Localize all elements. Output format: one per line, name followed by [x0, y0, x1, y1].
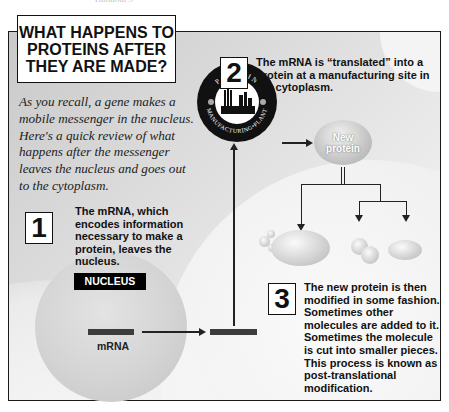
arrowhead-down-icon [355, 215, 363, 222]
arrowhead-right-icon [199, 328, 206, 336]
connector-right-drop [380, 184, 381, 201]
arrow-to-new-protein [282, 142, 307, 144]
cleaved-piece-2 [361, 246, 379, 264]
title-line-1: WHAT HAPPENS TO [19, 24, 174, 41]
connector-right-b [406, 201, 407, 215]
connector-right-horizontal [359, 201, 407, 202]
cleaved-piece-3 [388, 240, 422, 260]
connector-left-drop [301, 184, 302, 224]
step-3-number: 3 [268, 283, 296, 315]
arrowhead-down-icon [402, 215, 410, 222]
arrowhead-right-icon [306, 139, 313, 147]
step-2-text: The mRNA is “translated” into a protein … [256, 56, 436, 94]
arrow-mrna-out [142, 331, 199, 333]
modified-protein-with-additions [271, 230, 330, 266]
title-line-2: PROTEINS AFTER [19, 41, 174, 58]
mrna-strand-nucleus [88, 329, 134, 335]
attached-molecule-small-3 [259, 236, 270, 247]
intro-paragraph: As you recall, a gene makes a mobile mes… [19, 94, 199, 195]
mrna-strand-cytoplasm [210, 329, 257, 335]
new-protein-molecule: New protein [314, 120, 372, 165]
new-protein-label-1: New [326, 132, 360, 143]
connector-right-a [359, 201, 360, 215]
new-protein-label-2: protein [326, 143, 360, 154]
mrna-label: mRNA [97, 340, 129, 352]
title-line-3: THEY ARE MADE? [19, 58, 174, 75]
connector-stem-right [344, 167, 345, 184]
nucleus-label: NUCLEUS [74, 273, 146, 290]
header-cut-text: Handout 3 [95, 0, 155, 3]
step-3-text: The new protein is then modified in some… [304, 281, 444, 394]
step-1-number: 1 [25, 212, 53, 244]
step-2-number: 2 [220, 57, 248, 89]
arrowhead-up-icon [230, 143, 238, 150]
arrow-to-plant [233, 150, 235, 326]
connector-horizontal [301, 184, 381, 185]
step-1-text: The mRNA, which encodes information nece… [75, 205, 185, 268]
connector-stem-left [341, 167, 342, 184]
page-title: WHAT HAPPENS TO PROTEINS AFTER THEY ARE … [17, 15, 176, 83]
